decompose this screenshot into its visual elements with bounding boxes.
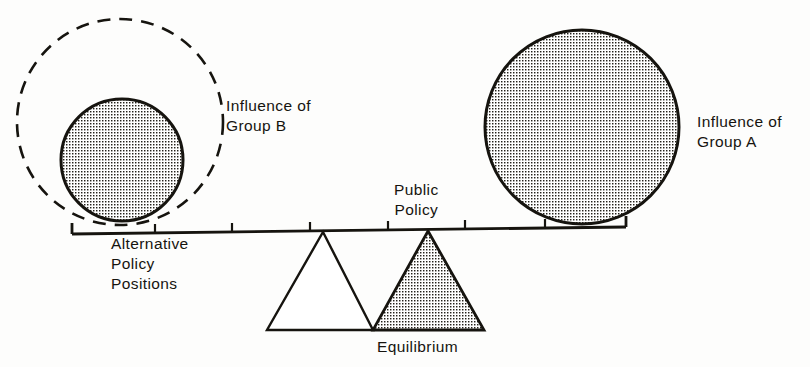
influence-group-b-actual-circle — [61, 99, 183, 221]
influence-group-a-label: Influence of Group A — [697, 112, 782, 152]
influence-group-b-label: Influence of Group B — [226, 96, 311, 136]
figure-root: Influence of Group B Influence of Group … — [0, 0, 810, 367]
alternative-policy-positions-label: Alternative Policy Positions — [111, 234, 189, 294]
equilibrium-label: Equilibrium — [377, 337, 458, 357]
influence-group-a-actual-circle — [485, 30, 679, 224]
fulcrum-alternative-triangle — [267, 232, 373, 330]
public-policy-label: Public Policy — [394, 180, 439, 220]
fulcrum-equilibrium-triangle — [373, 231, 484, 330]
